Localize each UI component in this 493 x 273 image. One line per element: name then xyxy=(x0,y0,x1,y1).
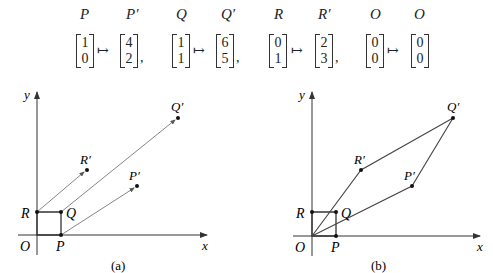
point-label-O: O xyxy=(295,240,305,255)
point-label-Q: Q xyxy=(66,206,76,221)
panel-b: y x R Q O P R′ Q′ P′ (b) xyxy=(293,87,483,273)
point-label-Q: Q xyxy=(341,206,351,221)
unit-square xyxy=(312,212,336,236)
point-label-R-prime: R′ xyxy=(353,152,365,167)
panel-a: y x R Q O P R′ Q′ P′ (a) xyxy=(18,87,208,273)
point-label-P: P xyxy=(55,239,65,254)
unit-square xyxy=(37,212,61,235)
image-parallelogram xyxy=(312,118,453,236)
caption-b: (b) xyxy=(371,258,386,273)
point-label-P-prime: P′ xyxy=(403,168,415,183)
point-label-O: O xyxy=(20,239,30,254)
point-label-R-prime: R′ xyxy=(79,152,91,167)
point-label-R: R xyxy=(295,206,305,221)
arrow-R xyxy=(37,172,84,212)
point-label-Q-prime: Q′ xyxy=(447,99,459,114)
y-axis-label: y xyxy=(297,87,305,102)
point-label-P: P xyxy=(330,240,340,255)
caption-a: (a) xyxy=(111,258,125,273)
point-label-R: R xyxy=(20,206,30,221)
x-axis-label: x xyxy=(201,238,208,253)
x-axis-label: x xyxy=(476,239,483,254)
y-axis-label: y xyxy=(22,87,30,102)
point-label-P-prime: P′ xyxy=(128,168,140,183)
diagram-canvas: y x R Q O P R′ Q′ P′ (a) y x xyxy=(0,0,493,273)
point-label-Q-prime: Q′ xyxy=(171,99,183,114)
